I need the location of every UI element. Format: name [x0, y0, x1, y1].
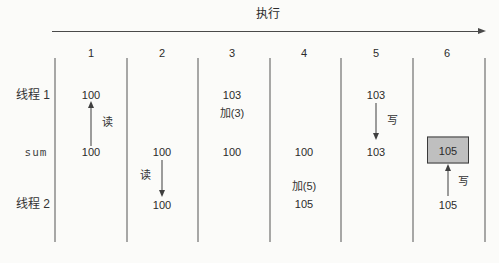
- step-number-3: 3: [229, 48, 235, 59]
- thread-race-diagram: 执行 1 2 3 4 5 6 线程 1 sum 线程 2 100 读 100 1…: [0, 0, 499, 263]
- column-divider: [341, 58, 342, 242]
- value-sum-step4: 100: [295, 147, 313, 158]
- write-arrowhead-step5-icon: [373, 133, 379, 140]
- axis-arrowhead-icon: [478, 28, 486, 34]
- row-label-thread1: 线程 1: [16, 89, 50, 101]
- step-number-1: 1: [88, 48, 94, 59]
- column-divider: [485, 58, 486, 242]
- op-label-write-step5: 写: [387, 115, 398, 126]
- axis-label: 执行: [256, 8, 280, 20]
- op-label-add5: 加(5): [292, 181, 316, 192]
- write-arrow-step5: [376, 103, 377, 133]
- value-sum-step2: 100: [153, 147, 171, 158]
- read-arrowhead-step2-icon: [159, 190, 165, 197]
- value-thread1-step1: 100: [82, 90, 100, 101]
- value-sum-step1: 100: [82, 147, 100, 158]
- read-arrowhead-step1-icon: [88, 101, 94, 108]
- value-thread2-step6: 105: [439, 200, 457, 211]
- column-divider: [413, 58, 414, 242]
- execution-axis-line: [52, 31, 479, 32]
- op-label-read-step1: 读: [102, 117, 113, 128]
- read-arrow-step1: [91, 108, 92, 146]
- row-label-thread2: 线程 2: [16, 198, 50, 210]
- value-thread1-step5: 103: [367, 90, 385, 101]
- step-number-2: 2: [159, 48, 165, 59]
- step-number-6: 6: [444, 48, 450, 59]
- column-divider: [55, 58, 56, 242]
- value-sum-step3: 100: [223, 147, 241, 158]
- op-label-add3: 加(3): [220, 108, 244, 119]
- column-divider: [198, 58, 199, 242]
- step-number-4: 4: [301, 48, 307, 59]
- column-divider: [127, 58, 128, 242]
- op-label-write-step6: 写: [458, 176, 469, 187]
- sum-final-highlight-box: 105: [427, 137, 469, 164]
- value-sum-step5: 103: [367, 147, 385, 158]
- value-sum-step6: 105: [439, 144, 457, 156]
- step-number-5: 5: [373, 48, 379, 59]
- value-thread2-step2: 100: [153, 200, 171, 211]
- op-label-read-step2: 读: [140, 170, 151, 181]
- read-arrow-step2: [162, 160, 163, 190]
- write-arrow-step6: [448, 171, 449, 196]
- row-label-sum: sum: [25, 147, 48, 158]
- value-thread2-step4: 105: [295, 199, 313, 210]
- write-arrowhead-step6-icon: [445, 164, 451, 171]
- value-thread1-step3: 103: [223, 90, 241, 101]
- column-divider: [270, 58, 271, 242]
